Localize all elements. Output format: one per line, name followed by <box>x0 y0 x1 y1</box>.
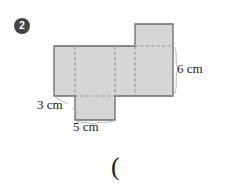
net-fill <box>54 24 173 120</box>
question-number-badge: 2 <box>14 18 30 34</box>
dimension-label-height: 3 cm <box>37 98 63 111</box>
dimension-label-width: 5 cm <box>73 120 99 133</box>
answer-open-paren: ( <box>111 154 120 180</box>
dimension-label-depth: 6 cm <box>177 62 203 75</box>
